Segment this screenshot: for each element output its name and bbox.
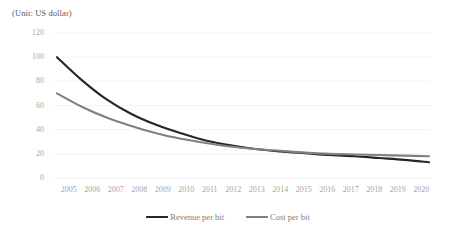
legend-item[interactable]: Cost per bit [246, 213, 310, 222]
legend-item[interactable]: Revenue per bit [146, 213, 224, 222]
x-tick-label: 2018 [363, 186, 387, 200]
legend-label: Cost per bit [270, 213, 310, 222]
x-tick-label: 2007 [104, 186, 128, 200]
line-chart: (Unit: US dollar) 020406080100120 200520… [0, 0, 456, 234]
x-tick-label: 2019 [386, 186, 410, 200]
x-tick-label: 2009 [151, 186, 175, 200]
x-tick-label: 2016 [316, 186, 340, 200]
x-tick-label: 2013 [245, 186, 269, 200]
x-tick-label: 2005 [57, 186, 81, 200]
chart-legend: Revenue per bitCost per bit [0, 209, 456, 225]
x-tick-label: 2020 [410, 186, 434, 200]
series-lines [57, 57, 429, 162]
series-line [57, 57, 429, 162]
x-tick-label: 2017 [339, 186, 363, 200]
legend-swatch-icon [146, 216, 168, 219]
x-tick-label: 2008 [128, 186, 152, 200]
x-tick-label: 2015 [292, 186, 316, 200]
x-tick-label: 2011 [198, 186, 222, 200]
x-tick-label: 2006 [81, 186, 105, 200]
legend-swatch-icon [246, 216, 268, 219]
legend-label: Revenue per bit [170, 213, 224, 222]
gridlines [53, 33, 431, 178]
x-tick-label: 2010 [175, 186, 199, 200]
x-tick-label: 2012 [222, 186, 246, 200]
plot-area [0, 22, 456, 184]
unit-note: (Unit: US dollar) [12, 8, 72, 18]
x-tick-label: 2014 [269, 186, 293, 200]
x-axis-tick-labels: 2005200620072008200920102011201220132014… [57, 186, 433, 200]
plot-svg [0, 22, 456, 184]
